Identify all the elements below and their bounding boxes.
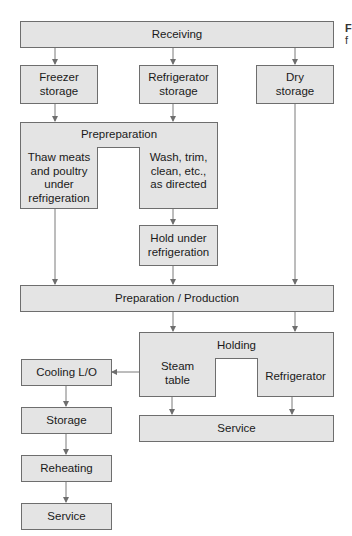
wash-label: Wash, trim, clean, etc., as directed <box>146 151 212 192</box>
prepreparation-header: Prepreparation <box>20 122 218 148</box>
caption-line-2: f <box>345 34 348 46</box>
steam-table-box: Steam table <box>139 358 216 397</box>
preparation-production-box: Preparation / Production <box>20 285 334 312</box>
refrigerator-box: Refrigerator <box>257 358 334 397</box>
preparation-production-label: Preparation / Production <box>115 292 239 306</box>
freezer-storage-label: Freezer storage <box>29 71 89 98</box>
thaw-box: Thaw meats and poultry under refrigerati… <box>20 147 98 209</box>
holding-label: Holding <box>217 339 256 353</box>
freezer-storage-box: Freezer storage <box>20 65 98 104</box>
dry-storage-box: Dry storage <box>256 65 334 104</box>
steam-table-label: Steam table <box>158 360 198 387</box>
cooling-label: Cooling L/O <box>36 366 97 380</box>
service-leftover-label: Service <box>47 510 85 524</box>
figure-caption-fragment: F f <box>345 22 352 46</box>
receiving-box: Receiving <box>20 21 334 48</box>
service-leftover-box: Service <box>21 503 112 530</box>
dry-storage-label: Dry storage <box>270 71 320 98</box>
reheating-box: Reheating <box>21 455 112 482</box>
reheating-label: Reheating <box>40 462 92 476</box>
prepreparation-label: Prepreparation <box>81 128 157 142</box>
hold-under-refrigeration-box: Hold under refrigeration <box>139 225 218 266</box>
refrigerator-storage-box: Refrigerator storage <box>139 65 218 104</box>
hold-under-refrigeration-label: Hold under refrigeration <box>142 232 216 259</box>
refrigerator-storage-label: Refrigerator storage <box>144 71 214 98</box>
service-main-box: Service <box>139 415 334 442</box>
cooling-box: Cooling L/O <box>21 359 112 386</box>
storage-box: Storage <box>21 407 112 434</box>
refrigerator-label: Refrigerator <box>265 370 326 384</box>
holding-header: Holding <box>139 332 334 359</box>
service-main-label: Service <box>217 422 255 436</box>
caption-line-1: F <box>345 22 352 34</box>
wash-box: Wash, trim, clean, etc., as directed <box>139 147 218 209</box>
storage-label: Storage <box>46 414 86 428</box>
thaw-label: Thaw meats and poultry under refrigerati… <box>22 151 96 205</box>
receiving-label: Receiving <box>152 28 203 42</box>
